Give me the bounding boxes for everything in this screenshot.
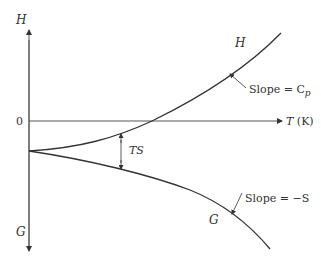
axis-label-h: H bbox=[15, 13, 27, 27]
slope-minus-s-pointer-arrow bbox=[232, 193, 242, 214]
ts-label: TS bbox=[129, 144, 144, 157]
slope-cp-pointer-arrow bbox=[230, 74, 246, 88]
curve-label-h: H bbox=[234, 36, 246, 50]
axis-label-g: G bbox=[16, 225, 26, 239]
temperature-axis-label: T (K) bbox=[286, 115, 314, 128]
gibbs-curve bbox=[29, 151, 270, 249]
slope-cp-label: Slope = Cp bbox=[249, 83, 311, 98]
diagram-canvas: H G 0 T (K) H G TS Slope = Cp Slope = −S bbox=[0, 0, 321, 260]
enthalpy-curve bbox=[29, 33, 281, 151]
curve-label-g: G bbox=[209, 213, 219, 227]
zero-label: 0 bbox=[16, 115, 23, 128]
slope-minus-s-label: Slope = −S bbox=[245, 192, 309, 205]
